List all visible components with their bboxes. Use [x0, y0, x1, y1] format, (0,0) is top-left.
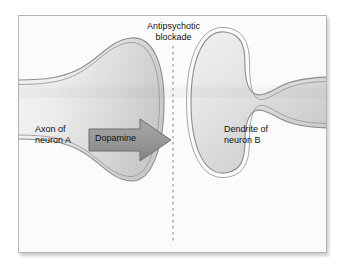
blockade-title-label: Antipsychotic blockade — [19, 21, 327, 43]
diagram-panel: Antipsychotic blockade Axon of neuron A … — [18, 15, 327, 253]
axon-label: Axon of neuron A — [35, 124, 71, 146]
dendrite-shape — [187, 27, 328, 178]
dopamine-label: Dopamine — [95, 133, 136, 144]
dendrite-label: Dendrite of neuron B — [224, 124, 268, 146]
figure-root: Antipsychotic blockade Axon of neuron A … — [0, 0, 343, 266]
